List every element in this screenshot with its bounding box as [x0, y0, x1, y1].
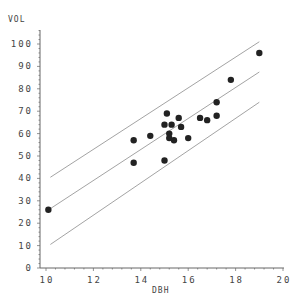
x-tick-label: 20 [277, 275, 292, 285]
data-point [228, 77, 234, 83]
data-points [45, 50, 262, 213]
regression-line [50, 72, 259, 209]
x-tick-label: 10 [40, 275, 55, 285]
data-point [147, 133, 153, 139]
y-axis-title: VOL [8, 15, 25, 24]
y-tick-label: 40 [18, 173, 33, 183]
regression-line [50, 102, 259, 244]
y-tick-label: 80 [18, 84, 33, 94]
x-axis-title: DBH [152, 286, 169, 295]
y-tick-label: 20 [18, 218, 33, 228]
data-point [185, 135, 191, 141]
data-point [197, 115, 203, 121]
axes [37, 30, 284, 271]
y-tick-label: 0 [26, 263, 33, 273]
scatter-chart: 0102030405060708090100101214161820VOLDBH [0, 0, 297, 304]
data-point [176, 115, 182, 121]
data-point [168, 121, 174, 127]
regression-line [50, 42, 259, 178]
regression-lines [50, 42, 259, 245]
x-tick-label: 16 [182, 275, 197, 285]
y-tick-label: 50 [18, 151, 33, 161]
data-point [213, 112, 219, 118]
data-point [130, 160, 136, 166]
y-tick-label: 90 [18, 61, 33, 71]
data-point [213, 99, 219, 105]
data-point [171, 137, 177, 143]
y-tick-label: 70 [18, 106, 33, 116]
data-point [161, 157, 167, 163]
data-point [164, 110, 170, 116]
data-point [161, 121, 167, 127]
x-tick-label: 18 [229, 275, 244, 285]
y-tick-label: 60 [18, 129, 33, 139]
data-point [178, 124, 184, 130]
data-point [45, 207, 51, 213]
axis-labels: 0102030405060708090100101214161820VOLDBH [8, 15, 291, 295]
y-tick-label: 30 [18, 196, 33, 206]
x-tick-label: 12 [87, 275, 102, 285]
data-point [256, 50, 262, 56]
data-point [130, 137, 136, 143]
y-tick-label: 10 [18, 241, 33, 251]
x-tick-label: 14 [134, 275, 149, 285]
data-point [204, 117, 210, 123]
y-tick-label: 100 [11, 39, 33, 49]
